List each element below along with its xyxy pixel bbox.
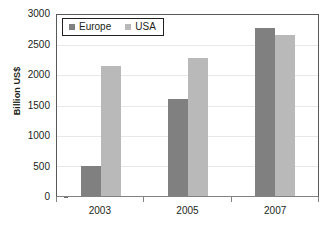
x-axis-tick-labels: 2003 2005 2007 bbox=[56, 205, 319, 221]
bar-europe-2003[interactable] bbox=[81, 166, 101, 196]
legend-swatch-icon bbox=[125, 24, 131, 30]
chart-legend: Europe USA bbox=[62, 18, 164, 36]
bar-group-2005 bbox=[168, 15, 208, 196]
y-tick-label: 500 bbox=[12, 162, 50, 172]
bar-usa-2007[interactable] bbox=[275, 35, 295, 196]
y-tick-label: 2000 bbox=[12, 70, 50, 80]
y-tick-label: 2500 bbox=[12, 40, 50, 50]
legend-swatch-icon bbox=[69, 24, 75, 30]
legend-label-europe: Europe bbox=[79, 22, 111, 32]
y-tick-label: 1500 bbox=[12, 101, 50, 111]
plot-area: Europe USA bbox=[56, 14, 319, 197]
bar-group-2003 bbox=[81, 15, 121, 196]
x-tick-label-2005: 2005 bbox=[176, 205, 198, 221]
bar-europe-2007[interactable] bbox=[255, 28, 275, 196]
x-tick-mark bbox=[56, 197, 57, 202]
x-tick-label-2003: 2003 bbox=[89, 205, 111, 221]
bar-usa-2005[interactable] bbox=[188, 58, 208, 196]
y-tick-label: 1000 bbox=[12, 131, 50, 141]
x-tick-mark bbox=[143, 197, 144, 202]
y-tick-label: 0 bbox=[12, 192, 50, 202]
x-tick-mark bbox=[231, 197, 232, 202]
y-axis-tick-labels: 3000 2500 2000 1500 1000 500 0 bbox=[12, 14, 50, 197]
bar-group-2007 bbox=[255, 15, 295, 196]
y-tick-label: 3000 bbox=[12, 9, 50, 19]
bars-layer bbox=[57, 15, 318, 196]
bar-europe-2005[interactable] bbox=[168, 99, 188, 196]
legend-item-europe[interactable]: Europe bbox=[69, 22, 111, 32]
x-tick-label-2007: 2007 bbox=[264, 205, 286, 221]
legend-label-usa: USA bbox=[135, 22, 156, 32]
bar-chart-figure: Billion US$ 3000 2500 2000 1500 1000 500… bbox=[0, 0, 332, 229]
x-tick-mark bbox=[318, 197, 319, 202]
legend-item-usa[interactable]: USA bbox=[125, 22, 156, 32]
x-axis-tick-marks bbox=[56, 197, 319, 202]
bar-usa-2003[interactable] bbox=[101, 66, 121, 196]
